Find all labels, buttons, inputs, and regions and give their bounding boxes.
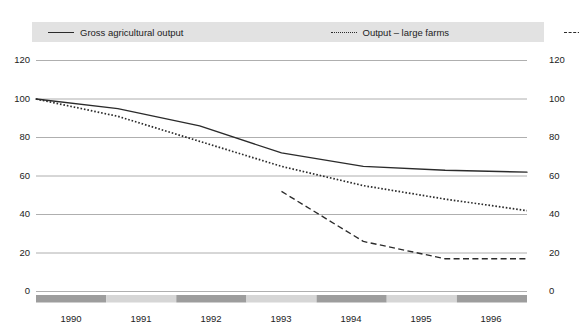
series-line-0 <box>36 99 527 172</box>
y-axis-left-tick: 120 <box>6 55 30 65</box>
series-lines <box>36 99 527 259</box>
y-axis-left-tick: 20 <box>6 248 30 258</box>
y-axis-right-tick: 100 <box>549 94 573 104</box>
series-line-2 <box>282 191 528 258</box>
x-axis-year-bands <box>36 295 527 303</box>
x-axis-tick-1995: 1995 <box>386 313 456 324</box>
y-axis-right-tick: 60 <box>549 171 573 181</box>
y-axis-left-tick: 100 <box>6 94 30 104</box>
chart-canvas <box>0 0 579 336</box>
year-band-1992 <box>176 295 246 303</box>
y-axis-right-tick: 0 <box>549 286 573 296</box>
plot-area: 120 100 80 60 40 20 0 120 100 80 60 40 2… <box>0 0 579 336</box>
y-axis-right-tick: 80 <box>549 132 573 142</box>
gridlines <box>36 61 527 292</box>
x-axis-tick-1996: 1996 <box>456 313 526 324</box>
year-band-1993 <box>246 295 316 303</box>
year-band-1994 <box>317 295 387 303</box>
year-band-1991 <box>106 295 176 303</box>
y-axis-left-tick: 80 <box>6 132 30 142</box>
year-band-1995 <box>387 295 457 303</box>
y-axis-left-tick: 40 <box>6 209 30 219</box>
x-axis-tick-1992: 1992 <box>176 313 246 324</box>
chart-root: Gross agricultural output Output – large… <box>0 0 579 336</box>
x-axis-tick-1991: 1991 <box>106 313 176 324</box>
year-band-1990 <box>36 295 106 303</box>
y-axis-right-tick: 20 <box>549 248 573 258</box>
y-axis-left-tick: 60 <box>6 171 30 181</box>
series-line-1 <box>36 99 527 211</box>
year-band-1996 <box>457 295 527 303</box>
y-axis-right-tick: 120 <box>549 55 573 65</box>
y-axis-left-tick: 0 <box>6 286 30 296</box>
x-axis-tick-1994: 1994 <box>316 313 386 324</box>
x-axis-tick-1990: 1990 <box>36 313 106 324</box>
y-axis-right-tick: 40 <box>549 209 573 219</box>
x-axis-tick-1993: 1993 <box>246 313 316 324</box>
